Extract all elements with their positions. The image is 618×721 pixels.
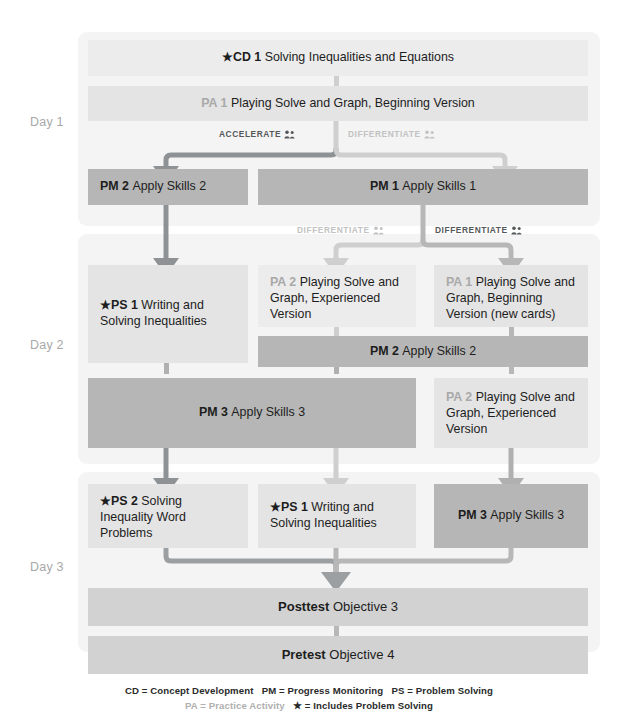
- two-people-icon: [424, 130, 435, 139]
- legend-pa: PA = Practice Activity: [185, 700, 285, 711]
- branch-label-differentiate-right-text: DIFFERENTIATE: [435, 225, 508, 235]
- node-pa2-right[interactable]: PA 2 Playing Solve and Graph, Experience…: [434, 378, 588, 448]
- node-pretest[interactable]: Pretest Objective 4: [88, 636, 588, 674]
- day-1-label: Day 1: [30, 115, 64, 129]
- branch-label-differentiate-day2-right: DIFFERENTIATE: [435, 225, 522, 235]
- legend-ps: PS = Problem Solving: [392, 685, 493, 696]
- node-cd1-code: ★CD 1: [222, 50, 261, 66]
- node-cd1-title: Solving Inequalities and Equations: [265, 50, 454, 66]
- node-pa2-mid[interactable]: PA 2 Playing Solve and Graph, Experience…: [258, 265, 416, 327]
- branch-label-accelerate-day1: ACCELERATE: [219, 129, 295, 139]
- legend-line-2: PA = Practice Activity ★ = Includes Prob…: [0, 699, 618, 714]
- node-pm2-left-code: PM 2: [100, 179, 129, 195]
- node-pm2-left-title: Apply Skills 2: [132, 179, 206, 195]
- legend-line-1: CD = Concept Development PM = Progress M…: [0, 684, 618, 699]
- node-pm3-day2[interactable]: PM 3 Apply Skills 3: [88, 378, 416, 448]
- legend-pm: PM = Progress Monitoring: [262, 685, 384, 696]
- node-ps1-day3-code: ★PS 1: [270, 500, 308, 514]
- node-pm1-title: Apply Skills 1: [402, 179, 476, 195]
- node-pa2-mid-code: PA 2: [270, 275, 296, 289]
- branch-label-accelerate-text: ACCELERATE: [219, 129, 281, 139]
- node-pm3-day2-code: PM 3: [199, 405, 228, 421]
- node-pa1-top-code: PA 1: [201, 96, 227, 112]
- node-ps1-day2[interactable]: ★PS 1 Writing and Solving Inequalities: [88, 265, 248, 363]
- node-pm3-day3-code: PM 3: [458, 508, 487, 524]
- node-posttest-title: Objective 3: [333, 599, 398, 616]
- branch-label-differentiate-day1: DIFFERENTIATE: [348, 129, 435, 139]
- two-people-icon: [511, 226, 522, 235]
- two-people-icon: [373, 226, 384, 235]
- legend-star: ★ = Includes Problem Solving: [293, 700, 433, 711]
- node-ps2-day3-code: ★PS 2: [100, 494, 138, 508]
- flowchart-canvas: Day 1 Day 2 Day 3: [0, 0, 618, 721]
- node-pa1-top[interactable]: PA 1 Playing Solve and Graph, Beginning …: [88, 86, 588, 121]
- branch-label-differentiate-left-text: DIFFERENTIATE: [297, 225, 370, 235]
- branch-label-differentiate-text: DIFFERENTIATE: [348, 129, 421, 139]
- node-pm1[interactable]: PM 1 Apply Skills 1: [258, 169, 588, 205]
- node-pa1-top-title: Playing Solve and Graph, Beginning Versi…: [231, 96, 475, 112]
- node-pm2-day2-title: Apply Skills 2: [402, 344, 476, 360]
- node-pretest-code: Pretest: [282, 647, 326, 664]
- legend-cd: CD = Concept Development: [125, 685, 253, 696]
- day-3-label: Day 3: [30, 560, 64, 574]
- node-posttest[interactable]: Posttest Objective 3: [88, 588, 588, 626]
- node-pm3-day3[interactable]: PM 3 Apply Skills 3: [434, 484, 588, 548]
- node-pm3-day2-title: Apply Skills 3: [231, 405, 305, 421]
- node-pm2-day2[interactable]: PM 2 Apply Skills 2: [258, 336, 588, 367]
- two-people-icon: [284, 130, 295, 139]
- node-pm3-day3-title: Apply Skills 3: [490, 508, 564, 524]
- node-pm2-left[interactable]: PM 2 Apply Skills 2: [88, 169, 248, 205]
- legend: CD = Concept Development PM = Progress M…: [0, 684, 618, 714]
- branch-label-differentiate-day2-left: DIFFERENTIATE: [297, 225, 384, 235]
- node-ps1-day3[interactable]: ★PS 1 Writing and Solving Inequalities: [258, 484, 416, 548]
- node-ps1-day2-code: ★PS 1: [100, 298, 138, 312]
- day-2-label: Day 2: [30, 338, 64, 352]
- node-pa2-right-code: PA 2: [446, 390, 472, 404]
- node-pretest-title: Objective 4: [329, 647, 394, 664]
- node-cd1[interactable]: ★CD 1 Solving Inequalities and Equations: [88, 40, 588, 76]
- node-ps2-day3[interactable]: ★PS 2 Solving Inequality Word Problems: [88, 484, 248, 548]
- node-pa1-right[interactable]: PA 1 Playing Solve and Graph, Beginning …: [434, 265, 588, 327]
- node-pa1-right-code: PA 1: [446, 275, 472, 289]
- node-pm1-code: PM 1: [370, 179, 399, 195]
- node-pm2-day2-code: PM 2: [370, 344, 399, 360]
- node-posttest-code: Posttest: [278, 599, 329, 616]
